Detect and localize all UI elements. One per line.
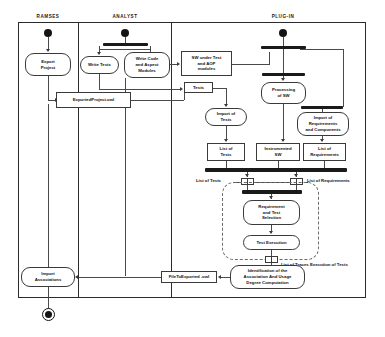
object-instrumented-sw[interactable]: Instrumented SW [256, 143, 300, 161]
edge-start-plugin-to-fork [283, 37, 284, 46]
arrow-pin-right [294, 174, 298, 177]
edge-sw-to-processing-v [269, 52, 270, 64]
fork-bar-analyst [103, 43, 148, 46]
object-sw-under-test[interactable]: SW under Test and AOP modules [181, 51, 232, 76]
activity-import-of-requirements-label: Import of Requirements and Components [305, 115, 340, 132]
activity-import-of-tests[interactable]: Import of Tests [205, 108, 247, 126]
arrow-import-of-tests [224, 104, 228, 107]
join-bar-plugin [205, 168, 347, 172]
lane-label-ramses: RAMSES [37, 14, 60, 19]
object-instrumented-sw-label: Instrumented SW [264, 146, 291, 158]
object-tests-label: Tests [193, 85, 204, 91]
arrow-list-of-requirements [320, 139, 324, 142]
edge-file-to-import-assoc [79, 277, 161, 278]
arrow-pin-left [245, 174, 249, 177]
object-list-of-tests[interactable]: List of Tests [207, 143, 245, 161]
edge-identification-to-file [221, 277, 230, 278]
edge-listtests-to-join [226, 161, 227, 168]
activity-import-of-requirements[interactable]: Import of Requirements and Components [297, 112, 349, 136]
edge-fork-analyst-h [99, 49, 151, 50]
activity-write-tests[interactable]: Write Tests [80, 56, 119, 74]
edge-forktop-right-v [343, 49, 344, 107]
activity-processing-of-sw[interactable]: Processing of SW [261, 82, 306, 104]
end-node-core [45, 311, 52, 318]
object-sw-under-test-label: SW under Test and AOP modules [192, 55, 222, 72]
object-list-of-requirements-label: List of Requirements [310, 146, 339, 158]
object-file-to-exported-owl[interactable]: FileToExported .owl [161, 271, 217, 283]
object-list-of-tests-label: List of Tests [220, 146, 233, 158]
object-tests[interactable]: Tests [184, 82, 213, 93]
arrow-export-project [46, 49, 50, 52]
object-exported-project-owl[interactable]: ExportedProject.owl [56, 92, 131, 108]
edge-writetests-down [99, 74, 100, 89]
arrow-sw-under-test [177, 62, 180, 66]
edge-listreq-to-join [324, 161, 325, 168]
object-file-to-exported-owl-label: FileToExported .owl [169, 274, 210, 280]
arrow-list-of-tests [224, 139, 228, 142]
activity-identification[interactable]: Identification of the Association And Us… [230, 265, 305, 289]
flow-label-list-of-requirements: List of Requirements [307, 178, 350, 183]
activity-req-test-selection-label: Requirement and Test Selection [258, 204, 284, 221]
edge-ramses-spine [48, 104, 49, 276]
pin-box [271, 256, 278, 263]
start-node-plugin [279, 29, 287, 37]
object-list-of-requirements[interactable]: List of Requirements [303, 143, 346, 161]
lane-label-plugin: PLUG-IN [272, 14, 295, 19]
flow-label-list-of-tests: List of Tests [196, 178, 221, 183]
activity-test-execution[interactable]: Test Execution [243, 235, 300, 250]
activity-export-project-label: Export Project [41, 59, 56, 71]
activity-req-test-selection[interactable]: Requirement and Test Selection [243, 200, 300, 225]
edge-tests-down [184, 93, 185, 100]
object-exported-project-owl-label: ExportedProject.owl [73, 97, 115, 103]
edge-forktop-down [283, 49, 284, 73]
edge-processing-to-instrumented [283, 104, 284, 141]
edge-sw-to-processing-h [232, 64, 270, 65]
arrow-write-tests [97, 52, 101, 55]
arrow-processing-of-sw [281, 78, 285, 81]
edge-export-to-owl [48, 76, 49, 100]
edge-owl-to-plugin [131, 100, 184, 101]
start-node-analyst [121, 29, 129, 37]
edge-instrumented-to-join [278, 161, 279, 168]
edge-tests-right [213, 88, 227, 89]
arrow-import-associations [75, 275, 78, 279]
activity-write-tests-label: Write Tests [88, 62, 111, 68]
arrow-tests-object [180, 87, 183, 91]
arrow-file-to-exported [218, 275, 221, 279]
lane-label-analyst: ANALYST [112, 14, 137, 19]
activity-import-of-tests-label: Import of Tests [217, 111, 236, 123]
activity-write-code-label: Write Code and Aspect Modules [135, 56, 158, 73]
activity-import-associations-label: Import Associations [35, 271, 62, 283]
arrow-test-execution [269, 231, 273, 234]
activity-export-project[interactable]: Export Project [25, 53, 71, 76]
activity-import-associations[interactable]: Import Associations [21, 267, 75, 287]
activity-diagram-canvas: RAMSES ANALYST PLUG-IN Export Project Im… [0, 0, 385, 337]
pin-stack-traces[interactable] [265, 256, 278, 263]
edge-writetests-to-tests [99, 89, 181, 90]
edge-forktop-right-h [300, 49, 344, 50]
arrow-instrumented-sw [281, 139, 285, 142]
start-node-ramses [44, 29, 52, 37]
activity-write-code[interactable]: Write Code and Aspect Modules [124, 52, 170, 78]
activity-processing-of-sw-label: Processing of SW [272, 87, 295, 99]
activity-test-execution-label: Test Execution [256, 240, 286, 246]
arrow-req-test-selection [269, 196, 273, 199]
lane-divider-ramses-analyst [78, 22, 79, 298]
join-bar-loop [242, 190, 302, 194]
activity-identification-label: Identification of the Association And Us… [244, 268, 292, 285]
